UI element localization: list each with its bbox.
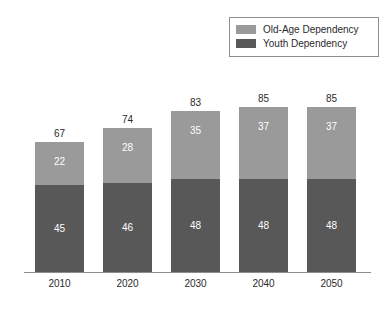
bar-segment-value-youth: 48 (239, 220, 288, 231)
x-tick-label: 2010 (35, 278, 84, 290)
x-tick-label: 2030 (171, 278, 220, 290)
bar-segment-youth[interactable]: 48 (239, 179, 288, 272)
bar-total-label: 85 (307, 93, 356, 104)
bar-group[interactable]: 833548 (171, 111, 220, 272)
stacked-bar-chart: 672245742846833548853748853748 201020202… (0, 0, 385, 309)
bar-segment-value-youth: 46 (103, 222, 152, 233)
x-tick-label: 2020 (103, 278, 152, 290)
bar-segment-old-age[interactable]: 37 (239, 107, 288, 179)
bar-segment-youth[interactable]: 48 (171, 179, 220, 272)
bar-segment-old-age[interactable]: 28 (103, 128, 152, 182)
bar-group[interactable]: 853748 (307, 107, 356, 272)
legend-item-old-age[interactable]: Old-Age Dependency (236, 23, 372, 36)
legend-item-youth[interactable]: Youth Dependency (236, 37, 372, 50)
bar-stack: 2245 (35, 142, 84, 272)
legend-label-youth: Youth Dependency (263, 38, 347, 49)
bar-total-label: 83 (171, 97, 220, 108)
legend-label-old-age: Old-Age Dependency (263, 24, 359, 35)
bar-segment-value-old-age: 37 (239, 121, 288, 132)
bar-segment-value-youth: 48 (307, 220, 356, 231)
bar-segment-value-youth: 48 (171, 220, 220, 231)
x-tick-label: 2040 (239, 278, 288, 290)
bar-segment-youth[interactable]: 45 (35, 185, 84, 272)
bar-segment-youth[interactable]: 46 (103, 183, 152, 272)
legend-swatch-youth (236, 39, 256, 48)
bar-stack: 3748 (239, 107, 288, 272)
bar-segment-old-age[interactable]: 37 (307, 107, 356, 179)
bar-group[interactable]: 672245 (35, 142, 84, 272)
bar-segment-old-age[interactable]: 35 (171, 111, 220, 179)
bar-segment-value-youth: 45 (35, 223, 84, 234)
bar-segment-value-old-age: 35 (171, 125, 220, 136)
bar-total-label: 85 (239, 93, 288, 104)
chart-legend: Old-Age Dependency Youth Dependency (229, 17, 379, 57)
bar-segment-old-age[interactable]: 22 (35, 142, 84, 185)
bar-group[interactable]: 853748 (239, 107, 288, 272)
bar-segment-value-old-age: 28 (103, 142, 152, 153)
x-axis-baseline (24, 272, 371, 273)
bar-group[interactable]: 742846 (103, 128, 152, 272)
bar-stack: 3748 (307, 107, 356, 272)
x-tick-label: 2050 (307, 278, 356, 290)
bar-stack: 2846 (103, 128, 152, 272)
bar-segment-youth[interactable]: 48 (307, 179, 356, 272)
bar-total-label: 67 (35, 128, 84, 139)
bar-segment-value-old-age: 37 (307, 121, 356, 132)
bar-stack: 3548 (171, 111, 220, 272)
legend-swatch-old-age (236, 25, 256, 34)
bar-total-label: 74 (103, 114, 152, 125)
bar-segment-value-old-age: 22 (35, 156, 84, 167)
